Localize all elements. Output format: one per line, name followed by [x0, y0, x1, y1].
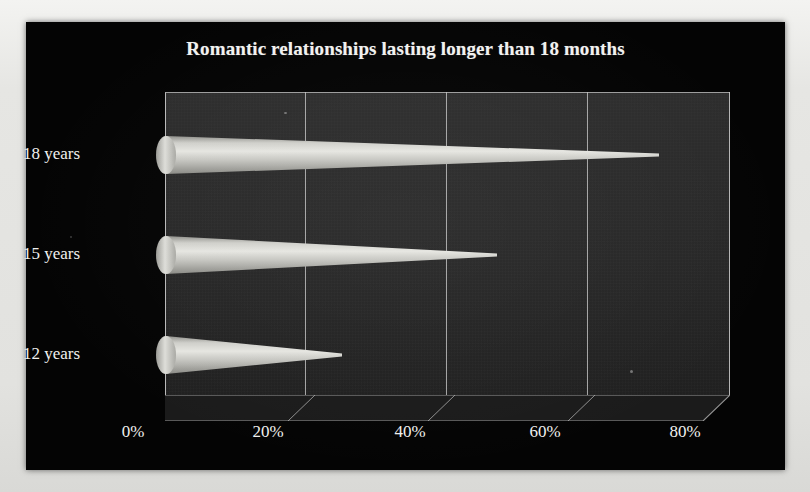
cone-bar-18-years[interactable] — [153, 133, 673, 177]
chart-page: Romantic relationships lasting longer th… — [0, 0, 810, 492]
scan-speck — [284, 112, 287, 114]
cone-shape — [153, 233, 513, 277]
cone-shape — [153, 133, 673, 177]
x-tick-80: 80% — [669, 422, 700, 442]
plot-area — [165, 92, 730, 395]
cone-bar-15-years[interactable] — [153, 233, 513, 277]
x-tick-60: 60% — [529, 422, 560, 442]
x-tick-0: 0% — [122, 422, 145, 442]
scan-speck — [630, 370, 633, 373]
cone-shape — [153, 333, 358, 377]
cone-bar-12-years[interactable] — [153, 333, 358, 377]
x-tick-20: 20% — [252, 422, 283, 442]
chart-title: Romantic relationships lasting longer th… — [26, 38, 785, 60]
scan-speck — [70, 236, 72, 238]
category-label-15-years: 15 years — [0, 244, 80, 264]
category-label-18-years: 18 years — [0, 144, 80, 164]
floor-shape — [165, 395, 730, 421]
category-label-12-years: 12 years — [0, 344, 80, 364]
plot-floor — [165, 395, 730, 421]
x-axis-ticks: 0% 20% 40% 60% 80% — [26, 422, 785, 452]
bars-group — [165, 92, 730, 395]
chart-frame: Romantic relationships lasting longer th… — [26, 22, 785, 470]
x-tick-40: 40% — [394, 422, 425, 442]
